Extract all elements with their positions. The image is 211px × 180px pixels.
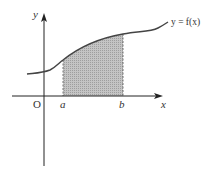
integral-diagram: y x O a b y = f(x) xyxy=(0,0,211,180)
y-axis-label: y xyxy=(32,8,38,20)
x-axis-label: x xyxy=(160,98,166,110)
shaded-area xyxy=(63,34,123,96)
curve-label: y = f(x) xyxy=(171,17,200,28)
upper-bound-label: b xyxy=(119,98,125,110)
origin-label: O xyxy=(33,98,41,110)
lower-bound-label: a xyxy=(60,98,66,110)
